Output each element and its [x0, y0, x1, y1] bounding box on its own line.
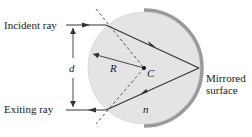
mirror-label-line1: Mirrored	[206, 72, 246, 84]
center-label: C	[147, 67, 155, 79]
distance-label: d	[69, 62, 75, 74]
mirrored-sphere-diagram: Incident ray Exiting ray d R C n Mirrore…	[0, 0, 252, 137]
center-point	[142, 66, 146, 70]
exiting-arrow-icon	[88, 108, 96, 113]
incident-arrow-icon	[82, 23, 90, 28]
exiting-ray-label: Exiting ray	[4, 103, 54, 115]
radius-label: R	[109, 62, 117, 74]
mirror-label-line2: surface	[206, 84, 238, 96]
incident-ray-label: Incident ray	[4, 19, 57, 31]
index-label: n	[143, 103, 149, 115]
